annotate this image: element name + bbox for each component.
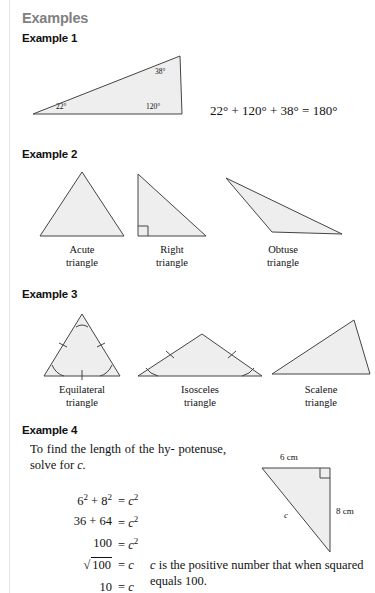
equation-term-a: 22° <box>210 103 228 118</box>
step-rhs: = c2 <box>118 514 138 531</box>
isosceles-triangle-figure <box>132 320 268 380</box>
equation-step-2: 36 + 64 = c2 <box>30 514 230 536</box>
caption-line-2: triangle <box>130 257 214 270</box>
term-a-exponent: 2 <box>83 492 88 502</box>
triangle-shape <box>138 334 262 376</box>
scalene-triangle-figure <box>266 314 375 380</box>
operator: + <box>89 514 96 528</box>
equilateral-triangle-figure <box>36 308 128 380</box>
radical-sign: √ <box>83 558 90 572</box>
step-rhs: = c <box>118 580 134 593</box>
equation-step-1: 62 + 82 = c2 <box>30 492 230 514</box>
example-4-heading: Example 4 <box>22 424 77 436</box>
angle-label-120: 120° <box>146 102 160 111</box>
right-triangle <box>130 168 214 240</box>
term-b: 64 <box>100 514 113 528</box>
step-lhs: 10 <box>100 580 113 593</box>
equals-sign: = <box>118 580 125 593</box>
term-a: 36 <box>74 514 87 528</box>
triangle-shape <box>272 320 370 374</box>
caption-acute: Acute triangle <box>36 244 128 269</box>
example-4-intro: To find the length of the hy- potenuse, … <box>30 442 226 473</box>
obtuse-triangle-figure <box>220 168 346 240</box>
angle-label-38: 38° <box>155 67 166 76</box>
equilateral-triangle <box>36 308 128 380</box>
right-triangle-diagram: 6 cm 8 cm c <box>244 442 368 560</box>
intro-variable: c. <box>77 458 86 472</box>
step-lhs: 36 + 64 <box>74 514 112 529</box>
rhs-exponent: 2 <box>134 514 139 524</box>
caption-scalene: Scalene triangle <box>266 384 375 409</box>
caption-line-1: Scalene <box>266 384 375 397</box>
dimension-label-top: 6 cm <box>280 452 298 462</box>
caption-line-2: triangle <box>36 257 128 270</box>
note-line-1: is the positive number that when <box>156 558 322 572</box>
example-4-note: c is the positive number that when squar… <box>150 558 374 589</box>
term-a: 100 <box>93 536 112 550</box>
equals-sign: = <box>118 538 125 552</box>
equals-sign: = <box>118 558 125 572</box>
intro-line-1: To find the length of the hy- <box>30 442 175 456</box>
caption-right: Right triangle <box>130 244 214 269</box>
equation-equals: = <box>302 103 309 118</box>
isosceles-triangle <box>132 320 268 380</box>
equation-plus-2: + <box>270 103 277 118</box>
step-lhs: 100 <box>93 536 112 551</box>
scalene-triangle <box>266 314 375 380</box>
step-lhs: √100 <box>83 558 112 573</box>
equation-term-c: 38° <box>281 103 299 118</box>
rhs-exponent: 2 <box>134 492 139 502</box>
example-2-heading: Example 2 <box>22 148 77 160</box>
page-content: Examples Example 1 22° 120° 38° 22° + 12… <box>22 0 368 593</box>
example-1-heading: Example 1 <box>22 32 77 44</box>
caption-line-2: triangle <box>220 257 346 270</box>
caption-line-2: triangle <box>266 397 375 410</box>
caption-line-2: triangle <box>132 397 268 410</box>
rhs-exponent: 2 <box>134 536 139 546</box>
triangle-shape <box>262 468 330 552</box>
rhs-variable: c <box>128 580 134 593</box>
caption-line-1: Equilateral <box>24 384 140 397</box>
dimension-label-right: 8 cm <box>336 506 354 516</box>
equation-plus-1: + <box>231 103 238 118</box>
equals-sign: = <box>118 516 125 530</box>
equation-step-3: 100 = c2 <box>30 536 230 558</box>
right-triangle-figure <box>130 168 214 240</box>
caption-line-2: triangle <box>24 397 140 410</box>
caption-line-1: Obtuse <box>220 244 346 257</box>
step-rhs: = c <box>118 558 134 573</box>
example-4-diagram: 6 cm 8 cm c <box>244 442 368 560</box>
equals-sign: = <box>118 494 125 508</box>
caption-isosceles: Isosceles triangle <box>132 384 268 409</box>
caption-line-1: Acute <box>36 244 128 257</box>
triangle-shape <box>44 314 120 376</box>
radicand: 100 <box>91 557 112 572</box>
term-a: 10 <box>100 580 113 593</box>
step-rhs: = c2 <box>118 536 138 553</box>
term-b-exponent: 2 <box>108 492 113 502</box>
example-1-equation: 22° + 120° + 38° = 180° <box>210 103 337 119</box>
example-1-figure: 22° 120° 38° <box>30 48 190 120</box>
equation-term-b: 120° <box>242 103 267 118</box>
obtuse-triangle <box>220 168 346 240</box>
triangle-shape <box>226 178 342 234</box>
rhs-variable: c <box>128 558 134 572</box>
acute-triangle <box>36 168 128 240</box>
dimension-label-hypotenuse: c <box>284 510 288 520</box>
left-margin-rule <box>9 0 10 593</box>
caption-line-1: Isosceles <box>132 384 268 397</box>
caption-equilateral: Equilateral triangle <box>24 384 140 409</box>
obtuse-triangle-with-angles: 22° 120° 38° <box>30 48 190 120</box>
acute-triangle-figure <box>36 168 128 240</box>
equation-sum: 180° <box>313 103 338 118</box>
triangle-shape <box>40 172 124 236</box>
step-rhs: = c2 <box>118 492 138 509</box>
angle-label-22: 22° <box>56 102 67 111</box>
page-title: Examples <box>22 10 88 26</box>
operator: + <box>91 494 98 508</box>
caption-obtuse: Obtuse triangle <box>220 244 346 269</box>
step-lhs: 62 + 82 <box>77 492 112 509</box>
caption-line-1: Right <box>130 244 214 257</box>
example-3-heading: Example 3 <box>22 288 77 300</box>
